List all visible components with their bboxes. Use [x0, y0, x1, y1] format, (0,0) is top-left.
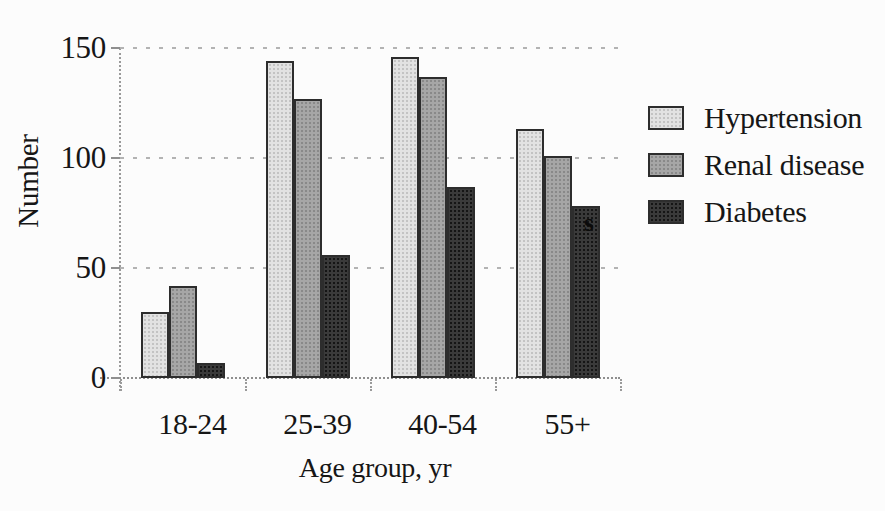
bar-renal-disease [419, 77, 447, 378]
bar-hypertension [141, 312, 169, 378]
y-axis-tick [111, 377, 120, 379]
x-axis-tick [620, 379, 622, 391]
legend: HypertensionRenal diseaseDiabetes [648, 100, 864, 241]
bar-hypertension [391, 57, 419, 378]
x-tick-label: 55+ [505, 407, 630, 441]
x-axis-tick [370, 379, 372, 391]
bar-renal-disease [294, 99, 322, 378]
x-axis-tick [120, 379, 122, 391]
bar-group-55+ [495, 48, 620, 378]
bar-diabetes [447, 187, 475, 378]
y-axis-tick [111, 157, 120, 159]
legend-label: Hypertension [704, 101, 862, 135]
bar-diabetes [197, 363, 225, 378]
y-tick-label: 100 [38, 139, 106, 177]
x-tick-label: 25-39 [255, 407, 380, 441]
y-axis-tick [111, 47, 120, 49]
legend-label: Diabetes [704, 195, 807, 229]
y-tick-label: 50 [38, 249, 106, 287]
bar-group-25-39 [245, 48, 370, 378]
x-axis-tick [245, 379, 247, 391]
y-tick-label: 150 [38, 29, 106, 67]
bar-diabetes [322, 255, 350, 378]
bar-hypertension [266, 61, 294, 378]
legend-swatch-icon [648, 200, 684, 224]
x-axis-title: Age group, yr [225, 452, 525, 484]
x-axis-tick [495, 379, 497, 391]
legend-label: Renal disease [704, 148, 864, 182]
plot-area [120, 48, 620, 378]
legend-swatch-icon [648, 106, 684, 130]
bar-hypertension [516, 129, 544, 378]
y-tick-label: 0 [38, 359, 106, 397]
bar-group-18-24 [120, 48, 245, 378]
legend-item: Diabetes [648, 194, 864, 229]
bar-renal-disease [169, 286, 197, 378]
bar-group-40-54 [370, 48, 495, 378]
x-tick-label: 40-54 [380, 407, 505, 441]
legend-swatch-icon [648, 153, 684, 177]
legend-item: Renal disease [648, 147, 864, 182]
x-tick-label: 18-24 [130, 407, 255, 441]
annotation-s-marker: s [584, 209, 593, 237]
bar-renal-disease [544, 156, 572, 378]
legend-item: Hypertension [648, 100, 864, 135]
y-axis-tick [111, 267, 120, 269]
bar-chart-figure: Number Age group, yr HypertensionRenal d… [0, 0, 885, 511]
